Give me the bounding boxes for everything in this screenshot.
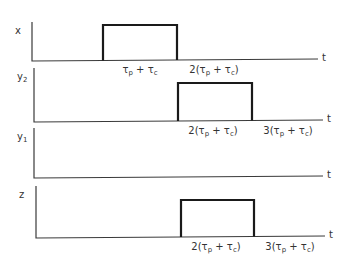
xlabel-y1: t bbox=[327, 170, 331, 180]
axis-x bbox=[32, 22, 318, 61]
ylabel-x: x bbox=[15, 26, 21, 36]
ylabel-z: z bbox=[19, 190, 24, 200]
xlabel-y2: t bbox=[327, 114, 331, 124]
panel-y2 bbox=[34, 68, 323, 122]
xlabel-x: t bbox=[322, 53, 326, 63]
tick-label-z-1: 3(τp + τc) bbox=[265, 242, 314, 254]
pulse-z bbox=[181, 200, 254, 237]
tick-label-y2-0: 2(τp + τc) bbox=[188, 126, 237, 138]
tick-label-x-1: 2(τp + τc) bbox=[189, 65, 238, 77]
tick-label-y2-1: 3(τp + τc) bbox=[263, 126, 312, 138]
ylabel-y2: y2 bbox=[17, 72, 27, 84]
tick-label-x-0: τp + τc bbox=[122, 65, 157, 77]
panel-z bbox=[36, 186, 325, 238]
xlabel-z: t bbox=[329, 230, 333, 240]
panel-x bbox=[32, 22, 318, 61]
ylabel-y1: y1 bbox=[17, 132, 27, 144]
pulse-y2 bbox=[178, 83, 252, 121]
pulse-x bbox=[103, 25, 177, 61]
tick-label-z-0: 2(τp + τc) bbox=[191, 242, 240, 254]
